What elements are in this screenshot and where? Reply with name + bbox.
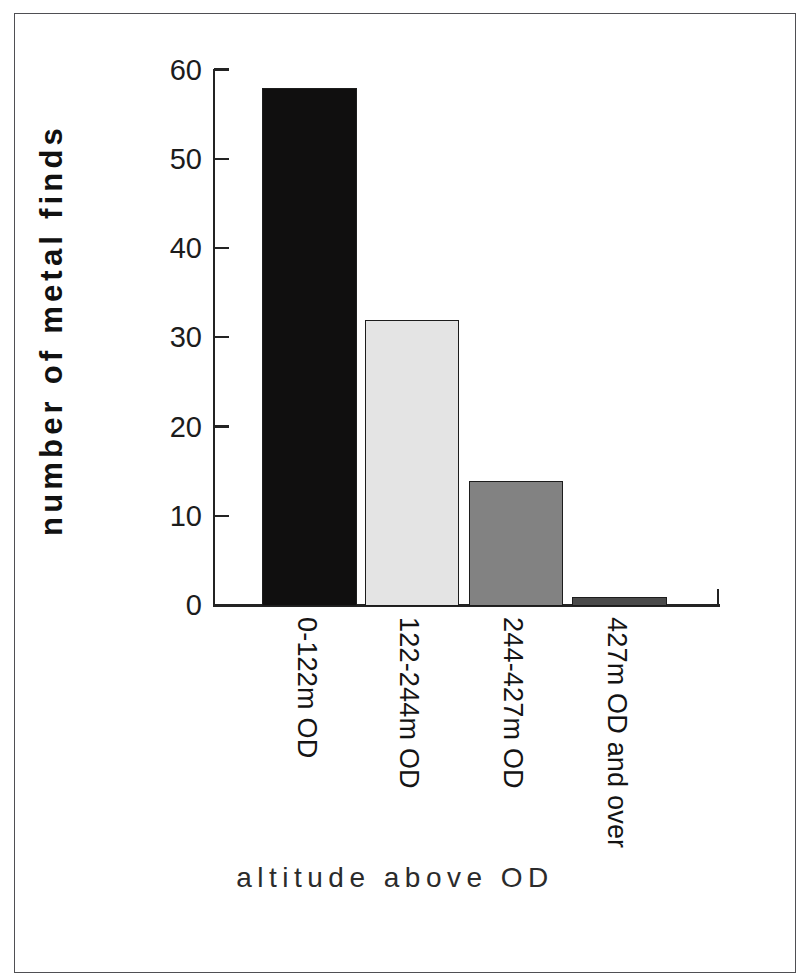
- bar: [365, 320, 459, 606]
- bar: [262, 88, 357, 606]
- x-axis-tick-label: 0-122m OD: [293, 617, 320, 758]
- x-axis-tick-label: 244-427m OD: [499, 617, 526, 789]
- x-axis-tick-label: 122-244m OD: [395, 617, 422, 789]
- bar: [572, 597, 667, 606]
- bar: [469, 481, 563, 606]
- y-axis-title: number of metal finds: [34, 124, 70, 536]
- x-axis-title: altitude above OD: [236, 862, 554, 894]
- x-axis-tick-label: 427m OD and over: [603, 617, 630, 848]
- bars-group: [0, 0, 811, 606]
